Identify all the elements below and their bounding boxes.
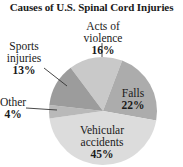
label-vehicular: Vehicular accidents 45% (74, 124, 130, 160)
label-violence-name: Acts of violence (84, 20, 123, 44)
label-falls: Falls 22% (118, 87, 148, 111)
label-falls-name: Falls (122, 87, 144, 99)
label-other: Other 4% (0, 96, 26, 120)
label-vehicular-line1: Vehicular (74, 124, 130, 136)
label-sports: Sports injuries 13% (4, 40, 44, 76)
label-sports-pct: 13% (4, 64, 44, 76)
label-vehicular-pct: 45% (74, 148, 130, 160)
label-falls-pct: 22% (118, 99, 148, 111)
label-violence-pct: 16% (67, 44, 139, 56)
label-other-name: Other (0, 96, 26, 108)
label-vehicular-line2: accidents (74, 136, 130, 148)
label-other-pct: 4% (0, 108, 26, 120)
label-sports-line2: injuries (4, 52, 44, 64)
label-violence: Acts of violence 16% (67, 20, 139, 56)
label-sports-line1: Sports (4, 40, 44, 52)
